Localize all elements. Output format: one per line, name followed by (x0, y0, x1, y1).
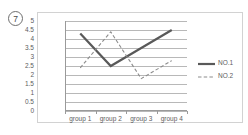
x-axis-tick (157, 111, 158, 114)
plot-area (65, 21, 187, 111)
x-axis-tick (126, 111, 127, 114)
y-axis-tick-label: 3.5 (25, 45, 34, 52)
chart-frame: 54.543.532.521.510.50 group 1group 2grou… (37, 12, 243, 123)
y-axis-tick-label: 4.5 (25, 27, 34, 34)
legend-item[interactable]: NO.2 (198, 70, 242, 83)
legend-line-swatch (198, 61, 215, 67)
y-axis-labels: 54.543.532.521.510.50 (13, 21, 36, 111)
y-axis-tick-label: 1.5 (25, 81, 34, 88)
series-layer (65, 21, 187, 111)
y-axis-tick-label: 5 (30, 18, 34, 25)
x-axis-tick-label: group 4 (161, 115, 183, 123)
chart-legend: NO.1NO.2 (198, 57, 242, 83)
y-axis-tick-label: 3 (30, 54, 34, 61)
y-axis-tick-label: 1 (30, 90, 34, 97)
x-axis-tick (187, 111, 188, 114)
x-axis-labels: group 1group 2group 3group 4 (65, 113, 187, 125)
y-axis-tick-label: 2.5 (25, 63, 34, 70)
y-axis-tick-label: 4 (30, 36, 34, 43)
x-axis-tick-label: group 1 (69, 115, 91, 123)
y-axis-tick-label: 0 (30, 108, 34, 115)
y-axis-tick-label: 0.5 (25, 99, 34, 106)
y-axis-tick-label: 2 (30, 72, 34, 79)
legend-label: NO.2 (218, 73, 233, 80)
x-axis-tick (65, 111, 66, 114)
x-axis-tick (96, 111, 97, 114)
legend-label: NO.1 (218, 60, 233, 67)
x-axis-tick-label: group 3 (130, 115, 152, 123)
chart-figure: 7 54.543.532.521.510.50 group 1group 2gr… (0, 0, 248, 135)
legend-line-swatch (198, 74, 215, 80)
x-axis-tick-label: group 2 (100, 115, 122, 123)
series-line-no-1 (80, 30, 172, 66)
legend-item[interactable]: NO.1 (198, 57, 242, 70)
